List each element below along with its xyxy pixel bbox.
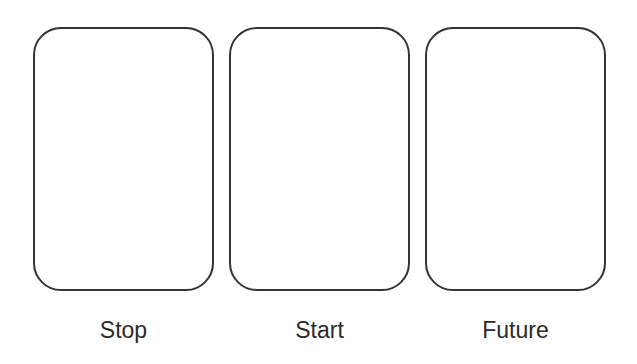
label-start: Start [229, 319, 410, 342]
card-start [229, 27, 410, 291]
label-stop: Stop [33, 319, 214, 342]
card-future [425, 27, 606, 291]
card-stop [33, 27, 214, 291]
label-future: Future [425, 319, 606, 342]
